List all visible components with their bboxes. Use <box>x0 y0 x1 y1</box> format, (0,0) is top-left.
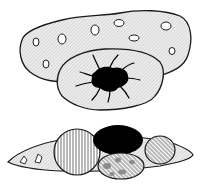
top-cell <box>20 11 191 110</box>
illustration <box>0 0 205 190</box>
diag-striped-circle <box>145 136 175 164</box>
striped-circle <box>54 129 100 175</box>
black-oval <box>93 125 143 155</box>
cell-diagram <box>0 0 205 190</box>
bottom-cell <box>8 125 193 179</box>
